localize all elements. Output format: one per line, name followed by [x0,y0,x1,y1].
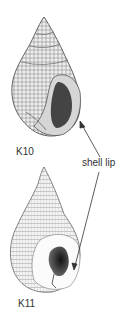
arrowhead-up-icon [80,121,85,128]
label-k11: K11 [18,299,35,309]
label-shell-lip: shell lip [82,158,115,168]
label-fragment-top: K9 [16,0,26,2]
shell-k10 [12,17,81,136]
label-k10: K10 [16,147,34,157]
shell-k11 [10,167,80,292]
